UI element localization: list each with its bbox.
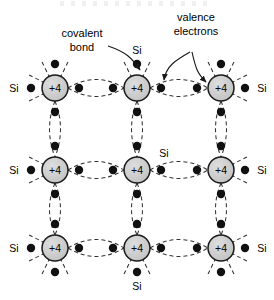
valence-electron-dot xyxy=(133,220,141,228)
valence-electron-dot xyxy=(217,220,225,228)
silicon-atom-core: +4 xyxy=(124,157,150,183)
valence-electron-dot xyxy=(51,268,59,276)
si-element-label: Si xyxy=(257,164,266,176)
silicon-atom-core: +4 xyxy=(208,235,234,261)
si-element-label: Si xyxy=(159,147,168,159)
valence-electron-dot xyxy=(75,244,83,252)
valence-electron-dot xyxy=(133,142,141,150)
valence-electron-dot xyxy=(217,108,225,116)
atom-charge-label: +4 xyxy=(215,164,227,176)
silicon-atom-core: +4 xyxy=(208,75,234,101)
atom-charge-label: +4 xyxy=(131,242,143,254)
valence-electron-dot xyxy=(157,244,165,252)
atom-charge-label: +4 xyxy=(131,164,143,176)
valence-electron-dot xyxy=(109,166,117,174)
silicon-lattice-figure: +4+4+4+4+4+4+4+4+4 SiSiSiSiSiSiSiSiSi co… xyxy=(0,0,274,300)
arrow-valence-right xyxy=(192,52,206,82)
valence-electron-dot xyxy=(51,220,59,228)
silicon-atom-core: +4 xyxy=(42,157,68,183)
lattice-diagram: +4+4+4+4+4+4+4+4+4 SiSiSiSiSiSiSiSiSi co… xyxy=(0,0,274,300)
arrow-valence-left xyxy=(164,52,190,80)
valence-electron-dot xyxy=(51,190,59,198)
valence-electron-dot xyxy=(75,166,83,174)
valence-electron-dot xyxy=(193,84,201,92)
valence-electron-dot xyxy=(241,166,249,174)
valence-electron-dot xyxy=(193,244,201,252)
valence-electron-dot xyxy=(217,190,225,198)
annotation-valence-electrons: valenceelectrons xyxy=(174,11,219,37)
atom-charge-label: +4 xyxy=(49,164,61,176)
leader-arrow-layer xyxy=(108,46,206,82)
valence-electron-dot xyxy=(241,244,249,252)
annotation-line: electrons xyxy=(174,25,219,37)
valence-electron-dot xyxy=(27,166,35,174)
si-element-label: Si xyxy=(9,164,18,176)
valence-electron-dot xyxy=(241,84,249,92)
valence-electron-dot xyxy=(109,84,117,92)
atom-charge-label: +4 xyxy=(215,82,227,94)
silicon-atom-core: +4 xyxy=(124,235,150,261)
valence-electron-dot xyxy=(133,108,141,116)
valence-electron-dot xyxy=(133,268,141,276)
valence-electron-dot xyxy=(27,244,35,252)
si-element-label: Si xyxy=(257,82,266,94)
valence-electron-dot xyxy=(51,142,59,150)
atom-charge-label: +4 xyxy=(131,82,143,94)
valence-electron-dot xyxy=(133,60,141,68)
si-element-label: Si xyxy=(132,280,141,292)
si-element-label: Si xyxy=(9,82,18,94)
si-element-label: Si xyxy=(132,44,141,56)
valence-electron-dot xyxy=(51,60,59,68)
valence-electron-dot xyxy=(217,142,225,150)
silicon-atom-core: +4 xyxy=(208,157,234,183)
annotation-line: valence xyxy=(177,11,215,23)
atom-charge-label: +4 xyxy=(215,242,227,254)
valence-electron-dot xyxy=(217,60,225,68)
silicon-atom-core: +4 xyxy=(124,75,150,101)
valence-electron-dot xyxy=(157,84,165,92)
valence-electron-dot xyxy=(157,166,165,174)
valence-electron-dot xyxy=(193,166,201,174)
si-element-label: Si xyxy=(9,242,18,254)
annotation-line: covalent xyxy=(62,27,103,39)
si-element-label: Si xyxy=(257,242,266,254)
valence-electron-dot xyxy=(75,84,83,92)
silicon-atom-core: +4 xyxy=(42,235,68,261)
valence-electron-dot xyxy=(217,268,225,276)
valence-electron-dot xyxy=(51,108,59,116)
annotation-covalent-bond: covalentbond xyxy=(62,27,103,53)
annotation-line: bond xyxy=(70,41,94,53)
atom-charge-label: +4 xyxy=(49,242,61,254)
valence-electron-dot xyxy=(133,190,141,198)
valence-electron-dot xyxy=(109,244,117,252)
silicon-atom-core: +4 xyxy=(42,75,68,101)
valence-electron-dot xyxy=(27,84,35,92)
atom-charge-label: +4 xyxy=(49,82,61,94)
